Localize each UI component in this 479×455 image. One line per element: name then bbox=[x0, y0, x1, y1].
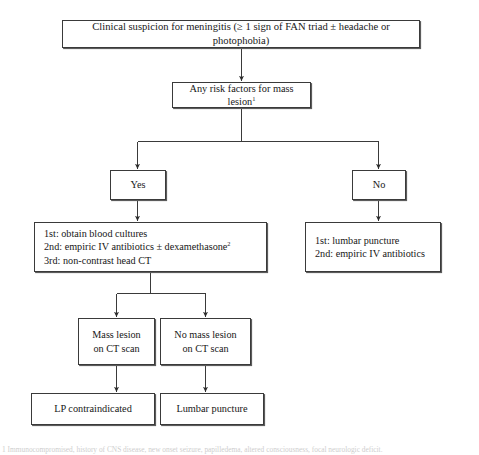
node-no-management-plan: 1st: lumbar puncture 2nd: empiric IV ant… bbox=[305, 222, 441, 272]
plan-step-2: 2nd: empiric IV antibiotics ± dexamethas… bbox=[44, 241, 231, 252]
no-mass-lesion-line-2: on CT scan bbox=[182, 343, 228, 354]
node-no-mass-lesion-on-ct: No mass lesion on CT scan bbox=[160, 318, 251, 365]
flowchart-canvas: Clinical suspicion for meningitis (≥ 1 s… bbox=[0, 0, 479, 455]
node-clinical-suspicion: Clinical suspicion for meningitis (≥ 1 s… bbox=[62, 20, 420, 48]
node-lp-contraindicated-label: LP contraindicated bbox=[32, 402, 154, 415]
node-yes-label: Yes bbox=[111, 178, 165, 191]
node-lumbar-puncture: Lumbar puncture bbox=[160, 393, 264, 425]
footnote-marker-2: 2 bbox=[227, 240, 230, 247]
plan-step-3: 3rd: non-contrast head CT bbox=[44, 255, 151, 266]
footnote-marker-1: 1 bbox=[252, 95, 255, 102]
node-risk-factors-label: Any risk factors for mass lesion1 bbox=[173, 82, 310, 108]
figure-footnote: 1 Immunocompromised, history of CNS dise… bbox=[2, 446, 476, 455]
plan-step-3-text: 3rd: non-contrast head CT bbox=[44, 255, 151, 266]
plan-step-2-text: 2nd: empiric IV antibiotics ± dexamethas… bbox=[44, 241, 227, 252]
node-risk-factors-text: Any risk factors for mass lesion bbox=[189, 83, 293, 107]
no-plan-step-1: 1st: lumbar puncture bbox=[315, 235, 399, 246]
node-mass-lesion-on-ct-label: Mass lesion on CT scan bbox=[79, 328, 154, 354]
node-no-management-plan-list: 1st: lumbar puncture 2nd: empiric IV ant… bbox=[306, 234, 440, 260]
mass-lesion-line-1: Mass lesion bbox=[92, 329, 140, 340]
node-yes-management-plan-list: 1st: obtain blood cultures 2nd: empiric … bbox=[35, 227, 266, 266]
mass-lesion-line-2: on CT scan bbox=[93, 343, 139, 354]
no-mass-lesion-line-1: No mass lesion bbox=[174, 329, 236, 340]
node-lp-contraindicated: LP contraindicated bbox=[31, 393, 155, 425]
node-no-mass-lesion-on-ct-label: No mass lesion on CT scan bbox=[161, 328, 250, 354]
node-yes-management-plan: 1st: obtain blood cultures 2nd: empiric … bbox=[34, 222, 267, 272]
node-risk-factors: Any risk factors for mass lesion1 bbox=[172, 82, 311, 108]
node-yes: Yes bbox=[110, 170, 166, 200]
no-plan-step-2: 2nd: empiric IV antibiotics bbox=[315, 248, 425, 259]
plan-step-1-text: 1st: obtain blood cultures bbox=[44, 228, 147, 239]
plan-step-1: 1st: obtain blood cultures bbox=[44, 228, 147, 239]
node-lumbar-puncture-label: Lumbar puncture bbox=[161, 402, 263, 415]
node-no-label: No bbox=[353, 178, 405, 191]
node-clinical-suspicion-label: Clinical suspicion for meningitis (≥ 1 s… bbox=[63, 20, 419, 47]
node-mass-lesion-on-ct: Mass lesion on CT scan bbox=[78, 318, 155, 365]
node-no: No bbox=[352, 170, 406, 200]
